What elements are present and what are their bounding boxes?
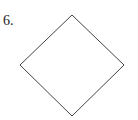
diamond-figure	[0, 0, 138, 120]
diamond-shape	[20, 15, 124, 116]
